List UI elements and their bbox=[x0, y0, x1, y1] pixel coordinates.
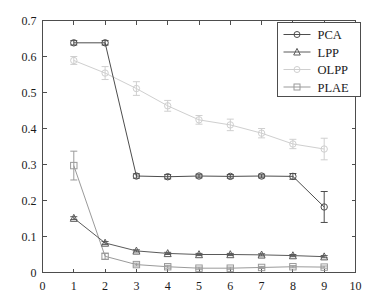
error-bar bbox=[70, 151, 77, 180]
series-line bbox=[74, 166, 324, 269]
error-bar bbox=[321, 192, 328, 223]
legend-label: OLPP bbox=[318, 63, 349, 77]
error-bar bbox=[164, 100, 171, 111]
x-tick-label: 3 bbox=[133, 279, 139, 293]
error-bar bbox=[102, 253, 109, 259]
chart-figure: 01234567891000.10.20.30.40.50.60.7PCALPP… bbox=[0, 0, 373, 306]
x-tick-label: 1 bbox=[71, 279, 77, 293]
series-lpp bbox=[70, 214, 327, 260]
x-tick-label: 6 bbox=[227, 279, 233, 293]
x-tick-label: 2 bbox=[102, 279, 108, 293]
legend: PCALPPOLPPPLAE bbox=[278, 23, 361, 97]
y-tick-label: 0.5 bbox=[22, 86, 37, 100]
error-bar bbox=[133, 82, 140, 96]
x-tick-label: 9 bbox=[321, 279, 327, 293]
legend-label: PCA bbox=[318, 28, 342, 42]
x-tick-label: 0 bbox=[40, 279, 46, 293]
x-tick-label: 4 bbox=[165, 279, 171, 293]
legend-label: PLAE bbox=[318, 81, 350, 95]
y-tick-label: 0.3 bbox=[22, 158, 37, 172]
y-tick-label: 0.7 bbox=[22, 14, 37, 28]
x-tick-label: 10 bbox=[350, 279, 362, 293]
error-bar bbox=[102, 67, 109, 80]
y-tick-label: 0.6 bbox=[22, 50, 37, 64]
legend-label: LPP bbox=[318, 46, 340, 60]
y-tick-label: 0.1 bbox=[22, 230, 37, 244]
x-tick-label: 5 bbox=[196, 279, 202, 293]
y-tick-label: 0 bbox=[31, 266, 37, 280]
line-chart: 01234567891000.10.20.30.40.50.60.7PCALPP… bbox=[0, 0, 373, 306]
x-tick-label: 8 bbox=[290, 279, 296, 293]
y-tick-label: 0.2 bbox=[22, 194, 37, 208]
y-tick-label: 0.4 bbox=[22, 122, 37, 136]
x-tick-label: 7 bbox=[259, 279, 265, 293]
